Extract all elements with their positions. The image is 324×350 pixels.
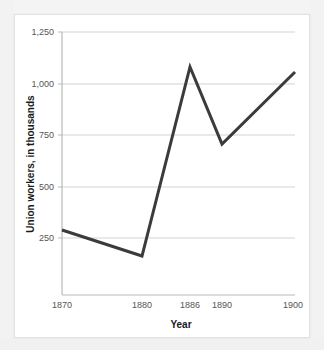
x-tick-label-1880: 1880 [132,300,152,310]
x-tick-label-1886: 1886 [180,300,200,310]
gridlines [62,32,295,238]
data-series-union-workers [62,67,295,256]
figure-root: 1,250 1,000 750 500 250 1870 1880 1886 1… [0,0,324,350]
x-axis-title: Year [170,319,191,330]
y-tick-label-1250: 1,250 [31,27,54,37]
y-tick-label-750: 750 [39,130,54,140]
y-axis-title: Union workers, in thousands [25,95,36,233]
y-tick-label-250: 250 [39,233,54,243]
x-tick-label-1900: 1900 [283,300,303,310]
x-tick-label-1890: 1890 [212,300,232,310]
y-tick-label-500: 500 [39,182,54,192]
y-tick-label-1000: 1,000 [31,79,54,89]
x-tick-label-1870: 1870 [52,300,72,310]
line-chart: 1,250 1,000 750 500 250 1870 1880 1886 1… [0,0,324,350]
